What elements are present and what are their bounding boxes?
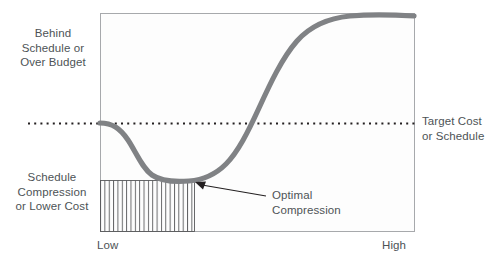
x-axis-label-low: Low: [97, 238, 118, 253]
compression-region-hatch: [101, 181, 195, 232]
target-line-label: Target Cost or Schedule: [422, 114, 498, 143]
y-axis-label-bottom: Schedule Compression or Lower Cost: [8, 170, 96, 214]
y-axis-label-top: Behind Schedule or Over Budget: [10, 26, 96, 70]
optimal-compression-label: Optimal Compression: [272, 188, 362, 217]
x-axis-label-high: High: [382, 238, 406, 253]
diagram-canvas: Behind Schedule or Over Budget Schedule …: [0, 0, 500, 263]
